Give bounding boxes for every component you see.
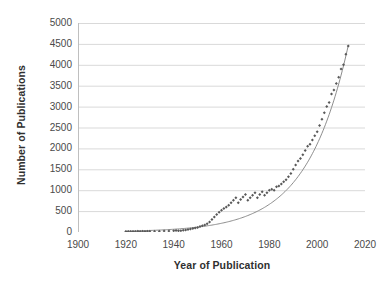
data-point <box>301 153 304 156</box>
data-point <box>330 93 333 96</box>
data-point <box>292 168 295 171</box>
data-point <box>335 82 338 85</box>
data-point <box>232 199 235 202</box>
data-point <box>323 111 326 114</box>
plot-svg <box>78 23 365 232</box>
data-point <box>347 44 350 47</box>
x-tick-label: 1940 <box>154 240 194 250</box>
data-point <box>249 196 252 199</box>
x-tick-label: 2000 <box>297 240 337 250</box>
data-point <box>234 196 237 199</box>
data-point <box>179 229 182 232</box>
data-point <box>213 215 216 218</box>
data-point <box>277 185 280 188</box>
data-point <box>313 134 316 137</box>
data-point <box>306 145 309 148</box>
data-point <box>275 185 278 188</box>
data-point <box>222 207 225 210</box>
data-point <box>289 172 292 175</box>
data-point <box>206 222 209 225</box>
data-point <box>141 230 144 232</box>
data-point <box>325 105 328 108</box>
data-point <box>184 229 187 232</box>
data-point <box>256 196 259 199</box>
data-point <box>208 220 211 223</box>
x-tick-label: 1960 <box>202 240 242 250</box>
trendline <box>126 46 348 232</box>
data-point <box>136 230 139 232</box>
data-point <box>227 204 230 207</box>
data-point <box>297 159 300 162</box>
data-point <box>251 194 254 197</box>
data-point <box>230 201 233 204</box>
data-point <box>342 63 345 66</box>
data-point <box>198 225 201 228</box>
data-point <box>318 124 321 127</box>
data-point <box>239 198 242 201</box>
data-point <box>244 193 247 196</box>
data-point <box>237 201 240 204</box>
x-tick-label: 1980 <box>249 240 289 250</box>
data-point <box>215 213 218 216</box>
x-tick-label: 2020 <box>345 240 381 250</box>
data-point <box>265 191 268 194</box>
data-point <box>246 199 249 202</box>
data-point <box>280 182 283 185</box>
data-point <box>294 164 297 167</box>
data-point <box>268 189 271 192</box>
data-point <box>282 180 285 183</box>
data-point <box>299 157 302 160</box>
data-points <box>124 44 349 232</box>
gridlines <box>78 24 365 233</box>
data-point <box>287 175 290 178</box>
data-point <box>316 130 319 133</box>
plot-area <box>78 23 365 232</box>
data-point <box>308 143 311 146</box>
x-tick-label: 1920 <box>106 240 146 250</box>
data-point <box>263 194 266 197</box>
data-point <box>258 193 261 196</box>
data-point <box>337 76 340 79</box>
data-point <box>182 229 185 232</box>
data-point <box>311 139 314 142</box>
data-point <box>285 178 288 181</box>
data-point <box>196 226 199 229</box>
x-tick-label: 1900 <box>58 240 98 250</box>
data-point <box>253 191 256 194</box>
data-point <box>320 118 323 121</box>
data-point <box>242 195 245 198</box>
trendline-path <box>126 46 348 232</box>
data-point <box>304 149 307 152</box>
data-point <box>210 218 213 221</box>
data-point <box>273 189 276 192</box>
x-axis-title: Year of Publication <box>78 259 366 271</box>
data-point <box>225 205 228 208</box>
data-point <box>328 101 331 104</box>
data-point <box>332 88 335 91</box>
